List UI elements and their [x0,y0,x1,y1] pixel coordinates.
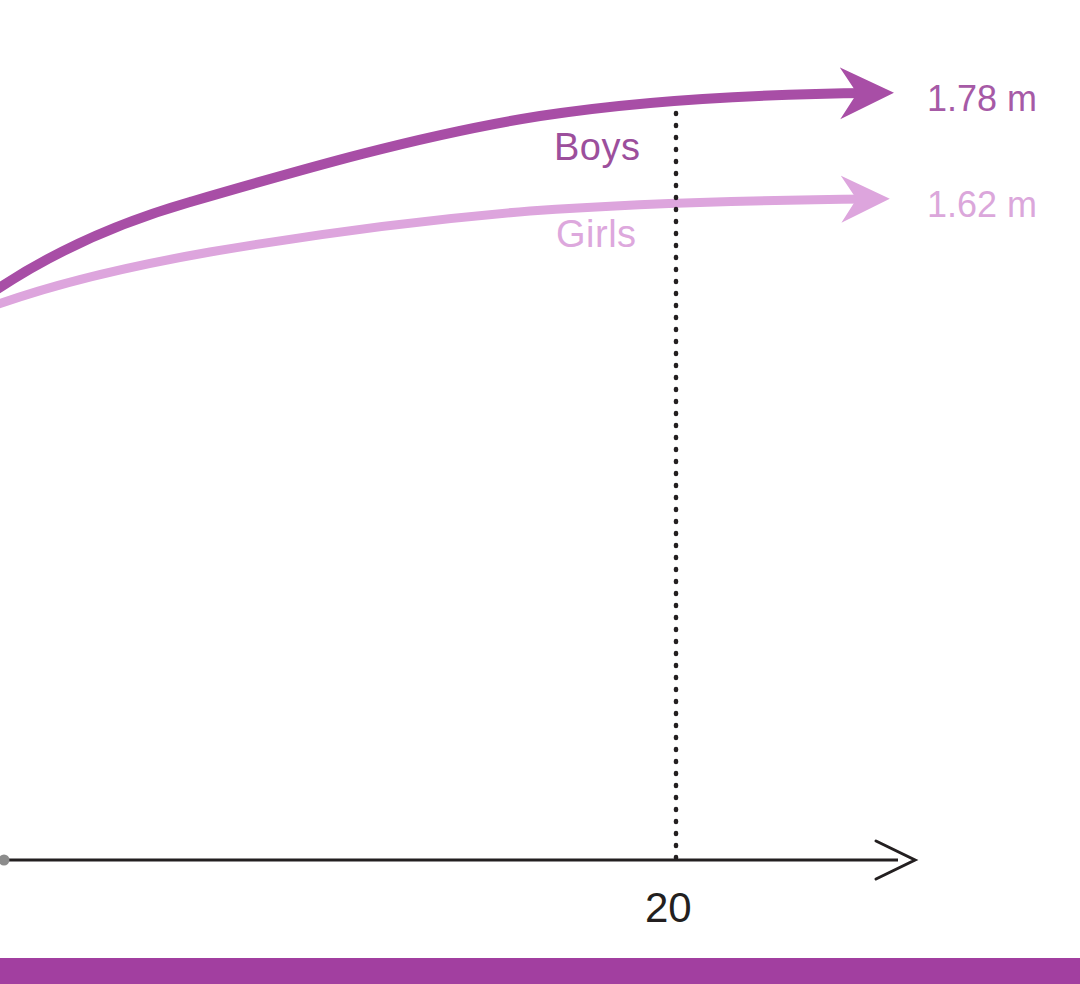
x-axis-tick-label-20: 20 [645,884,692,932]
endpoint-value-boys: 1.78 m [927,78,1037,120]
chart-canvas [0,0,1080,984]
endpoint-value-girls: 1.62 m [927,184,1037,226]
growth-chart: Boys Girls 1.78 m 1.62 m 20 [0,0,1080,984]
bottom-decorative-band [0,958,1080,984]
series-label-boys: Boys [554,126,640,169]
series-line-girls [0,199,870,305]
series-line-boys [0,93,872,290]
x-axis-origin-dot [0,855,10,866]
series-label-girls: Girls [556,213,637,256]
